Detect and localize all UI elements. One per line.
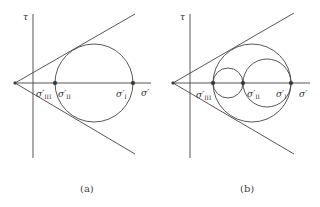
point-sigma-i <box>289 81 293 85</box>
point-sigma-ii <box>53 81 57 85</box>
envelope-upper <box>173 13 294 83</box>
point-sigma-i <box>131 81 135 85</box>
caption-a: (a) <box>80 183 94 194</box>
tau-label: τ <box>180 12 186 22</box>
sigma-axis-label: σ′ <box>299 89 307 99</box>
sigma-ii-label: σ′II <box>58 89 72 100</box>
panel-a-labels: τ σ′III σ′II σ′I σ′ (a) <box>23 12 149 194</box>
caption-b: (b) <box>240 183 254 194</box>
tau-label: τ <box>23 12 29 22</box>
sigma-i-label: σ′I <box>116 89 127 100</box>
sigma-i-label: σ′I <box>276 89 287 100</box>
sigma-iii-label: σ′III <box>196 90 212 101</box>
panel-b-labels: τ σ′III σ′II σ′I σ′ (b) <box>180 12 307 194</box>
point-sigma-iii <box>211 81 215 85</box>
point-sigma-ii <box>241 81 245 85</box>
sigma-iii-label: σ′III <box>36 89 52 100</box>
mohr-diagram: τ σ′III σ′II σ′I σ′ (a) τ σ′III σ′II σ′I… <box>0 0 320 207</box>
sigma-axis-label: σ′ <box>141 88 149 98</box>
panel-a <box>14 14 151 158</box>
apex-point <box>172 82 174 84</box>
apex-point <box>14 82 16 84</box>
panel-b <box>172 13 310 158</box>
sigma-ii-label: σ′II <box>247 89 261 100</box>
